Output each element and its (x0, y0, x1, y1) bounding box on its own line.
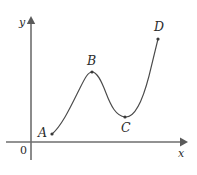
point-b-marker (90, 70, 93, 73)
point-a-label: A (38, 127, 47, 140)
y-axis-arrowhead (27, 16, 35, 24)
x-axis-arrowhead (180, 138, 188, 147)
x-axis-label: x (178, 148, 184, 159)
point-b-label: B (87, 55, 96, 68)
curve-diagram: A B C D y x 0 (0, 0, 197, 175)
point-d-marker (156, 37, 159, 40)
point-d-label: D (154, 21, 164, 34)
origin-label: 0 (20, 145, 27, 156)
y-axis-label: y (19, 17, 25, 28)
point-c-label: C (121, 122, 131, 135)
point-c-marker (123, 115, 126, 118)
point-a-marker (50, 132, 53, 135)
diagram-canvas (0, 0, 197, 175)
function-curve (52, 39, 158, 134)
